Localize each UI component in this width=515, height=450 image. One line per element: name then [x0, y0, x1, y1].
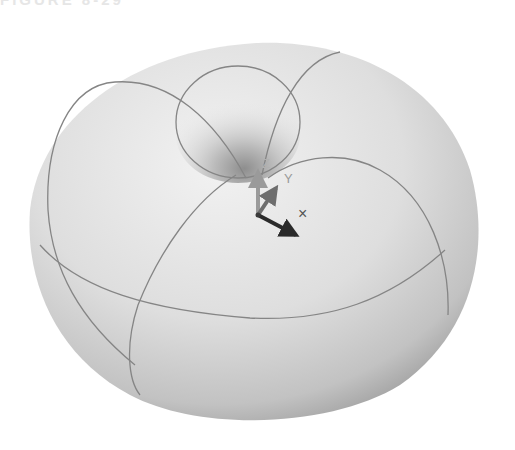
torus-render: Z Y × [0, 0, 515, 450]
z-axis-label: Z [262, 156, 270, 171]
torus-body[interactable] [29, 43, 478, 420]
3d-viewport[interactable]: Z Y × [0, 0, 515, 450]
y-axis-label: Y [284, 171, 293, 186]
origin-point [256, 213, 261, 218]
cursor-cross-icon: × [298, 205, 307, 222]
